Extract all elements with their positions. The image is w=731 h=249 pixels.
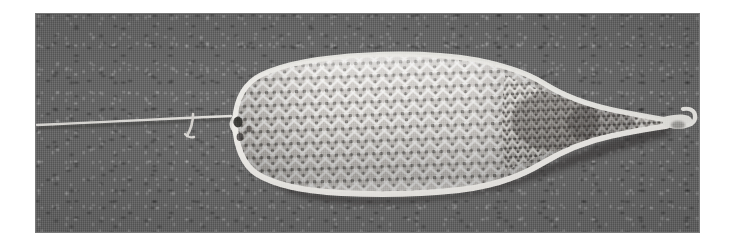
device-illustration — [35, 13, 700, 233]
delivery-wire — [37, 114, 231, 137]
distal-tip — [663, 109, 695, 129]
device-layer — [35, 13, 700, 233]
page-root — [0, 0, 731, 249]
scanned-photo-plate — [35, 13, 700, 233]
